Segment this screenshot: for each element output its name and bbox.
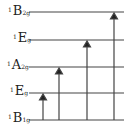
label-symbol: E xyxy=(18,30,28,45)
label-superscript: 1 xyxy=(8,6,12,13)
label-superscript: 1 xyxy=(10,86,14,93)
label-symbol: E xyxy=(15,83,25,98)
label-superscript: 1 xyxy=(8,113,12,120)
level-label-b1g: 1B1g xyxy=(8,111,30,124)
arrowhead-icon xyxy=(111,13,118,19)
label-symbol: B xyxy=(13,3,23,18)
label-subscript: g xyxy=(27,36,31,43)
label-symbol: A xyxy=(12,57,21,72)
label-superscript: 1 xyxy=(13,33,17,40)
label-subscript: 1g xyxy=(22,116,30,123)
label-subscript: 2g xyxy=(21,63,29,70)
arrowhead-icon xyxy=(40,94,47,100)
label-symbol: B xyxy=(13,110,23,125)
arrowhead-icon xyxy=(84,41,91,47)
level-label-a2g: 1A2g xyxy=(7,58,29,71)
level-label-b2g: 1B2g xyxy=(8,4,30,17)
arrowhead-icon xyxy=(56,68,63,74)
label-subscript: 2g xyxy=(22,9,30,16)
level-label-eg-upper: 1Eg xyxy=(13,31,31,44)
level-label-eg-lower: 1Eg xyxy=(10,84,28,97)
energy-level-diagram: 1B2g 1Eg 1A2g 1Eg 1B1g xyxy=(0,0,129,132)
label-superscript: 1 xyxy=(7,60,11,67)
label-subscript: g xyxy=(24,89,28,96)
